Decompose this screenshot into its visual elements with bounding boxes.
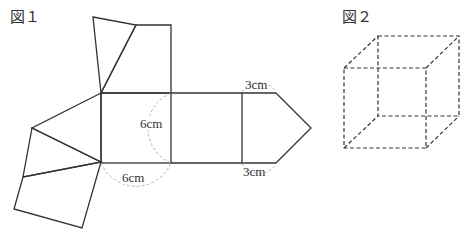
left-bottom-quad	[14, 162, 101, 228]
square-bottom-label: 6cm	[122, 170, 144, 185]
figure1-net: 6cm 6cm 3cm 3cm	[14, 17, 311, 228]
diagram-canvas: 図１ 6cm 6cm 3cm 3cm 図２	[0, 0, 470, 237]
top-trapezoid	[101, 25, 171, 93]
figure2-cube	[344, 36, 459, 148]
right-pentagon-tip	[276, 93, 311, 163]
cube-edge-br	[426, 116, 459, 148]
cube-edge-tr	[426, 36, 459, 68]
cube-front-face	[344, 68, 426, 148]
square-side-label: 6cm	[140, 116, 162, 131]
cube-edge-tl	[344, 36, 378, 68]
top-left-triangle	[93, 17, 136, 93]
left-triangle	[32, 93, 101, 162]
pentagon-top-label: 3cm	[245, 77, 267, 92]
cube-edge-bl	[344, 116, 378, 148]
pentagon-bottom-label: 3cm	[243, 164, 265, 179]
figure2-title: 図２	[342, 8, 372, 26]
figure1-title: 図１	[10, 8, 40, 26]
